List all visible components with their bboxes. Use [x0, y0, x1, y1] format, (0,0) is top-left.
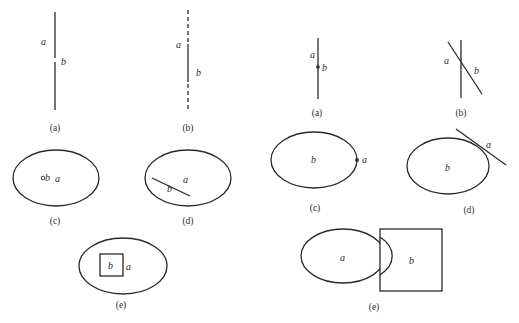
caption-b: (b) [455, 108, 466, 119]
label-b: b [311, 154, 316, 165]
left-figure-b: a b (b) [176, 10, 201, 134]
left-figure-a: a b (a) [41, 12, 66, 134]
label-b: b [45, 172, 50, 183]
right-figure-b: a b (b) [444, 40, 482, 119]
label-a: a [444, 55, 449, 66]
ellipse-a [145, 150, 231, 206]
caption-c: (c) [50, 216, 61, 227]
label-b: b [322, 62, 327, 73]
left-figure-d: b a (d) [145, 150, 231, 227]
label-a: a [183, 174, 188, 185]
label-b: b [61, 56, 66, 67]
label-b: b [108, 260, 113, 271]
right-figure-a: a b (a) [310, 38, 327, 119]
tangent-line-a [456, 129, 506, 165]
caption-a: (a) [50, 123, 61, 134]
caption-e: (e) [369, 302, 380, 313]
label-a: a [55, 173, 60, 184]
label-a: a [340, 252, 345, 263]
left-figure-c: b a (c) [13, 150, 99, 227]
label-b: b [409, 255, 414, 266]
label-a: a [176, 39, 181, 50]
label-a: a [486, 139, 491, 150]
right-figure-c: a b (c) [271, 132, 367, 214]
right-figure-e: a b (e) [301, 229, 442, 313]
label-a: a [41, 36, 46, 47]
caption-e: (e) [116, 300, 127, 311]
caption-b: (b) [182, 123, 193, 134]
label-a: a [126, 261, 131, 272]
point-a [355, 158, 359, 162]
point-b [316, 65, 320, 69]
right-figure-d: a b (d) [407, 129, 506, 216]
caption-d: (d) [182, 216, 193, 227]
label-b: b [445, 162, 450, 173]
caption-a: (a) [312, 108, 323, 119]
diagram-canvas: a b (a) a b (b) b a (c) b a (d) b a (e) [0, 0, 519, 323]
label-b: b [167, 183, 172, 194]
label-a: a [310, 49, 315, 60]
caption-c: (c) [310, 203, 321, 214]
caption-d: (d) [463, 205, 474, 216]
label-b: b [196, 67, 201, 78]
label-a: a [362, 154, 367, 165]
left-figure-e: b a (e) [79, 238, 167, 311]
label-b: b [474, 65, 479, 76]
